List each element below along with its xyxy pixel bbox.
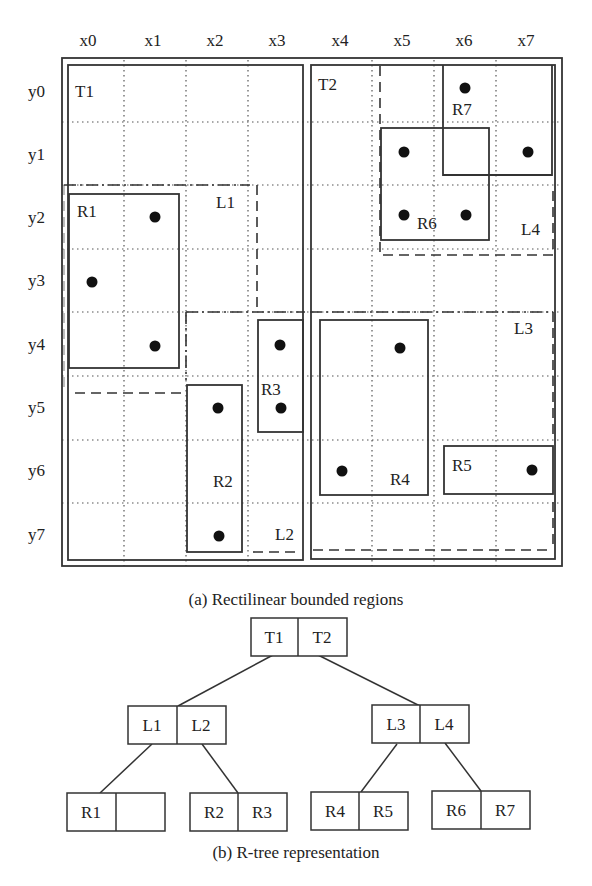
node-entry: T1 xyxy=(265,628,284,647)
region-label: R6 xyxy=(417,214,437,233)
region-label: T1 xyxy=(75,82,94,101)
data-point xyxy=(150,341,161,352)
tree-leaf-3: R4 R5 xyxy=(311,792,408,830)
region-label: T2 xyxy=(318,75,337,94)
node-entry: T2 xyxy=(313,628,332,647)
data-point xyxy=(213,403,224,414)
x-label: x3 xyxy=(269,31,286,50)
y-axis-labels: y0 y1 y2 y3 y4 y5 y6 y7 xyxy=(28,82,46,544)
node-entry: R7 xyxy=(495,801,515,820)
y-label: y6 xyxy=(28,461,45,480)
x-axis-labels: x0 x1 x2 x3 x4 x5 x6 x7 xyxy=(80,31,536,50)
tree-node-root: T1 T2 xyxy=(251,618,347,656)
data-point xyxy=(275,340,286,351)
region-label: R7 xyxy=(452,100,472,119)
node-entry: R3 xyxy=(252,803,272,822)
data-point xyxy=(523,147,534,158)
region-label: R3 xyxy=(261,380,281,399)
data-point xyxy=(399,147,410,158)
node-entry: R1 xyxy=(81,803,101,822)
data-point xyxy=(399,210,410,221)
region-label: R2 xyxy=(213,472,233,491)
caption-a: (a) Rectilinear bounded regions xyxy=(189,590,404,609)
y-label: y7 xyxy=(28,525,46,544)
y-label: y5 xyxy=(28,398,45,417)
node-entry: L4 xyxy=(435,715,454,734)
data-point xyxy=(460,83,471,94)
data-point xyxy=(461,210,472,221)
region-label: R1 xyxy=(77,202,97,221)
tree-node-right: L3 L4 xyxy=(372,705,469,743)
data-point xyxy=(214,531,225,542)
node-entry: R2 xyxy=(204,803,224,822)
region-label: L3 xyxy=(514,319,533,338)
region-L4: L4 xyxy=(380,66,553,255)
caption-b: (b) R-tree representation xyxy=(212,843,380,862)
region-L3: L3 xyxy=(310,312,553,550)
data-point xyxy=(150,212,161,223)
data-point xyxy=(87,277,98,288)
node-entry: L2 xyxy=(192,716,211,735)
node-entry: R6 xyxy=(446,801,466,820)
x-label: x0 xyxy=(80,31,97,50)
y-label: y2 xyxy=(28,208,45,227)
grid-lines xyxy=(62,60,562,566)
node-entry: R4 xyxy=(325,802,345,821)
tree-leaf-1: R1 xyxy=(67,793,165,831)
region-label: R4 xyxy=(390,470,410,489)
x-label: x2 xyxy=(207,31,224,50)
region-label: L2 xyxy=(275,525,294,544)
y-label: y3 xyxy=(28,271,45,290)
region-label: L1 xyxy=(216,193,235,212)
region-R3: R3 xyxy=(258,320,303,432)
region-R4: R4 xyxy=(320,320,428,495)
region-R6: R6 xyxy=(381,128,489,240)
x-label: x5 xyxy=(394,31,411,50)
y-label: y0 xyxy=(28,82,45,101)
node-entry: L3 xyxy=(387,715,406,734)
x-label: x1 xyxy=(145,31,162,50)
data-point xyxy=(395,343,406,354)
region-label: R5 xyxy=(452,456,472,475)
r-tree-figure: x0 x1 x2 x3 x4 x5 x6 x7 y0 y1 y2 y3 y4 y… xyxy=(0,0,592,886)
data-point xyxy=(276,403,287,414)
y-label: y4 xyxy=(28,335,46,354)
y-label: y1 xyxy=(28,145,45,164)
data-point xyxy=(337,466,348,477)
tree-leaf-2: R2 R3 xyxy=(190,793,287,831)
x-label: x6 xyxy=(456,31,473,50)
node-entry: L1 xyxy=(143,716,162,735)
node-entry: R5 xyxy=(373,802,393,821)
region-label: L4 xyxy=(521,220,540,239)
data-point xyxy=(527,465,538,476)
x-label: x7 xyxy=(518,31,536,50)
x-label: x4 xyxy=(332,31,350,50)
tree-node-left: L1 L2 xyxy=(128,706,226,744)
tree-leaf-4: R6 R7 xyxy=(432,791,530,829)
region-R7: R7 xyxy=(443,65,552,175)
